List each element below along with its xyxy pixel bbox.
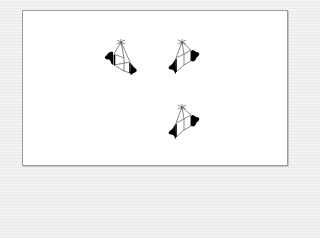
wireframe-shape-icon [163, 38, 207, 82]
wireframe-shape-icon [163, 103, 207, 147]
wireframe-shape-icon [100, 38, 144, 82]
wireframe-figure-top-right [163, 38, 207, 82]
stimulus-panel [22, 10, 288, 166]
wireframe-figure-bottom-right [163, 103, 207, 147]
wireframe-figure-top-left [100, 38, 144, 82]
